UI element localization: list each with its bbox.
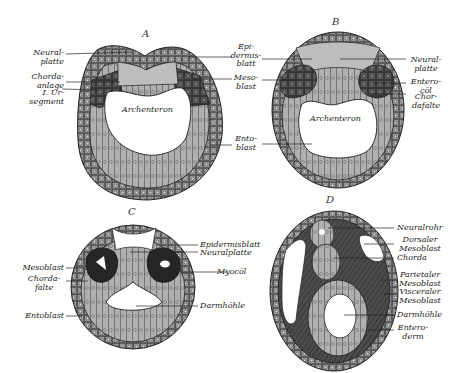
panel-c — [71, 225, 195, 349]
panel-b — [272, 32, 404, 188]
label-c-chordafalte: Chorda- falte — [24, 275, 64, 292]
label-b-entoblast: Ento- blast — [228, 135, 264, 152]
panel-d-darmhoehle — [324, 294, 356, 338]
panel-letter-a: A — [142, 28, 149, 39]
label-c-mesoblast: Mesoblast — [10, 264, 64, 273]
panel-c-myocoel-right — [160, 261, 170, 268]
label-d-chorda: Chorda — [397, 254, 427, 263]
panel-letter-c: C — [128, 206, 136, 217]
label-d-parietaler-mesoblast: Parietaler Mesoblast — [396, 271, 444, 288]
label-d-darmhoehle: Darmhöhle — [397, 311, 442, 320]
label-a-neuralplatte: Neural- platte — [24, 49, 64, 66]
label-d-dorsaler-mesoblast: Dorsaler Mesoblast — [396, 236, 444, 253]
label-d-neuralrohr: Neuralrohr — [397, 224, 443, 233]
label-a-archenteron: Archenteron — [122, 106, 173, 115]
label-d-visceraler-mesoblast: Visceraler Mesoblast — [396, 288, 444, 305]
panel-d-chorda — [312, 244, 340, 280]
label-c-entoblast: Entoblast — [10, 312, 64, 321]
label-b-chordafalte: Chor- dafalte — [404, 93, 448, 110]
panel-a — [78, 46, 223, 200]
panel-d — [270, 211, 398, 371]
label-c-neuralplatte: Neuralplatte — [200, 249, 252, 258]
panel-d-neural-canal — [319, 229, 325, 235]
label-b-neuralplatte: Neural- platte — [404, 56, 448, 73]
panel-letter-d: D — [326, 194, 334, 205]
label-c-darmhoehle: Darmhöhle — [200, 302, 245, 311]
label-a-ursegment: I. Ur- segment — [24, 89, 64, 106]
panel-letter-b: B — [332, 16, 339, 27]
panel-b-mesoblast-right — [359, 65, 394, 98]
label-d-enteroderm: Entero- derm — [396, 324, 430, 341]
label-b-epidermisblatt: Epi- dermis- blatt — [228, 43, 264, 69]
label-b-mesoblast: Meso- blast — [228, 74, 264, 91]
panel-b-archenteron — [299, 99, 377, 158]
label-c-myocoel: Myocöl — [217, 268, 246, 277]
label-b-archenteron: Archenteron — [310, 115, 361, 124]
